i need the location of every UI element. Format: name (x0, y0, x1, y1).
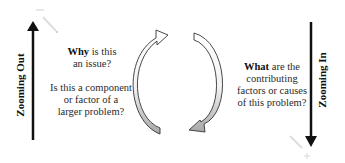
component-question-line1: Is this a component (38, 82, 144, 94)
what-question-line2: contributing (228, 73, 316, 85)
zooming-in-text: Zooming In (316, 52, 328, 107)
what-question-line1: What are the (228, 61, 316, 73)
cycle-arrow-right (189, 33, 223, 132)
why-question-line1: Why is this (44, 46, 140, 58)
why-keyword: Why (67, 46, 89, 57)
why-question-line2: an issue? (44, 58, 140, 70)
what-question-line3: factors or causes (228, 85, 316, 97)
what-keyword: What (244, 61, 269, 72)
what-question-rest: are the (269, 61, 300, 72)
component-question: Is this a component or factor of a large… (38, 82, 144, 118)
zoom-out-arrow (27, 21, 39, 140)
what-question-line4: of this problem? (228, 97, 316, 109)
why-question: Why is this an issue? (44, 46, 140, 70)
zooming-out-text: Zooming Out (14, 53, 26, 116)
zoom-in-arrow-head (305, 136, 317, 147)
component-question-line2: or factor of a (38, 94, 144, 106)
component-question-line3: larger problem? (38, 106, 144, 118)
zoom-out-arrow-head (27, 21, 39, 31)
why-question-rest: is this (89, 46, 116, 57)
zooming-out-label: Zooming Out (14, 53, 26, 116)
magnifier-minus-icon (36, 10, 58, 33)
zooming-in-label: Zooming In (316, 52, 328, 107)
what-question: What are the contributing factors or cau… (228, 61, 316, 109)
